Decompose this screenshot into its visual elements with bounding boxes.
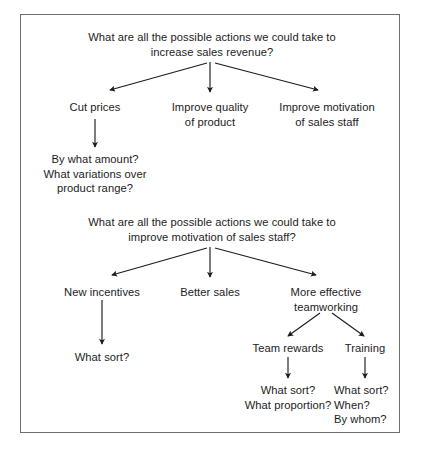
node-training: Training xyxy=(337,341,393,356)
node-new-incentives: New incentives xyxy=(46,285,158,300)
node-team-rewards-questions: What sort? What proportion? xyxy=(228,383,348,412)
node-training-questions: What sort? When? By whom? xyxy=(334,383,404,427)
node-more-effective-teamworking: More effective teamworking xyxy=(268,285,384,314)
node-cut-prices-questions: By what amount? What variations over pro… xyxy=(28,152,162,196)
node-team-rewards: Team rewards xyxy=(243,341,333,356)
node-improve-quality-of-product: Improve quality of product xyxy=(155,100,265,129)
node-new-incentives-question: What sort? xyxy=(52,350,152,365)
diagram-canvas: What are all the possible actions we cou… xyxy=(0,0,421,455)
node-cut-prices: Cut prices xyxy=(45,100,145,115)
question-block-increase-sales-revenue: What are all the possible actions we cou… xyxy=(62,30,362,60)
node-improve-motivation-of-sales-staff: Improve motivation of sales staff xyxy=(265,100,389,129)
question-block-improve-motivation: What are all the possible actions we cou… xyxy=(62,215,362,245)
node-better-sales: Better sales xyxy=(160,285,260,300)
